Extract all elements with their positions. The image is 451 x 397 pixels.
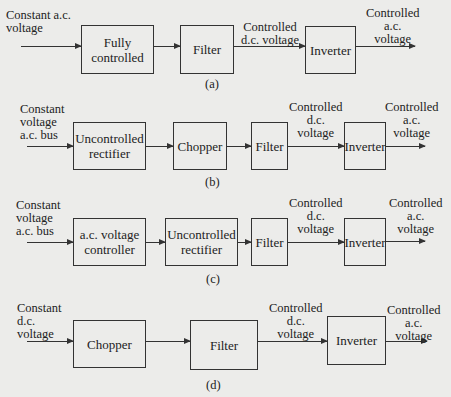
- block-uncontrolled-rectifier: Uncontrolled rectifier: [165, 218, 238, 266]
- input-label-a: Constant a.c. voltage: [6, 9, 71, 35]
- arrow-icon: [27, 242, 73, 243]
- caption-c: (c): [206, 272, 220, 287]
- block-filter: Filter: [251, 218, 288, 266]
- block-ac-voltage-controller: a.c. voltage controller: [73, 218, 146, 266]
- arrow-icon: [386, 241, 425, 242]
- block-chopper: Chopper: [73, 320, 146, 368]
- input-label-c: Constant voltage a.c. bus: [16, 199, 60, 238]
- block-inverter: Inverter: [344, 218, 386, 266]
- arrow-icon: [21, 46, 81, 47]
- caption-d: (d): [206, 378, 221, 393]
- mid-label-d: Controlled d.c. voltage: [269, 302, 322, 341]
- arrow-icon: [27, 341, 73, 342]
- block-inverter: Inverter: [327, 316, 386, 365]
- arrow-icon: [146, 242, 165, 243]
- block-inverter: Inverter: [305, 26, 356, 74]
- arrow-icon: [288, 242, 344, 243]
- block-fully-controlled: Fully controlled: [81, 25, 154, 74]
- mid-label-b: Controlled d.c. voltage: [289, 101, 342, 140]
- mid-label-c: Controlled d.c. voltage: [289, 197, 342, 236]
- arrow-icon: [146, 341, 190, 342]
- input-label-d: Constant d.c. voltage: [17, 302, 61, 341]
- arrow-icon: [27, 146, 73, 147]
- arrow-icon: [238, 242, 251, 243]
- output-label-c: Controlled a.c. voltage: [389, 197, 442, 236]
- input-label-b: Constant voltage a.c. bus: [20, 103, 64, 142]
- arrow-icon: [288, 146, 344, 147]
- caption-a: (a): [205, 77, 219, 92]
- arrow-icon: [356, 46, 415, 47]
- output-label-d: Controlled a.c. voltage: [387, 304, 440, 343]
- output-label-a: Controlled a.c. voltage: [366, 7, 419, 46]
- block-filter: Filter: [180, 25, 234, 74]
- arrow-icon: [227, 146, 251, 147]
- block-filter: Filter: [190, 320, 258, 370]
- caption-b: (b): [205, 175, 220, 190]
- block-inverter: Inverter: [344, 122, 386, 170]
- mid-label-a: Controlled d.c. voltage: [241, 21, 299, 47]
- arrow-icon: [146, 146, 173, 147]
- block-filter: Filter: [251, 122, 288, 170]
- arrow-icon: [258, 341, 327, 342]
- arrow-icon: [386, 146, 425, 147]
- block-uncontrolled-rectifier: Uncontrolled rectifier: [73, 122, 146, 170]
- arrow-icon: [154, 46, 180, 47]
- block-chopper: Chopper: [173, 122, 227, 170]
- output-label-b: Controlled a.c. voltage: [385, 101, 438, 140]
